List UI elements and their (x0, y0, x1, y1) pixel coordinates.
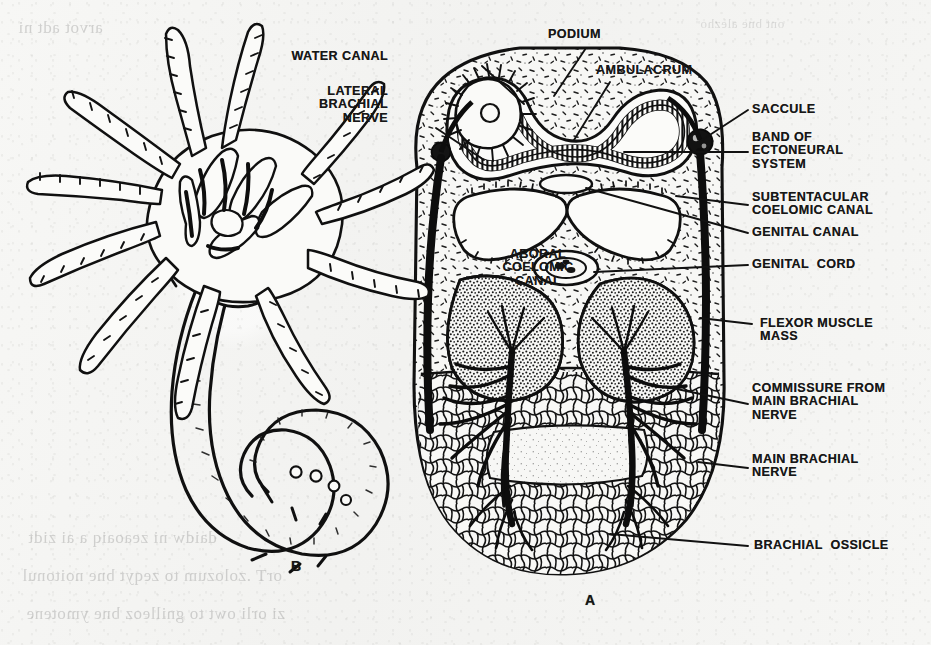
panel-label-a: A (585, 592, 595, 608)
label-aboral-coelomic-canal: ABORAL COELOMIC CANAL (478, 248, 598, 288)
crinoid-stalk-outer (209, 282, 388, 555)
label-podium: PODIUM (548, 28, 601, 41)
label-ambulacrum: AMBULACRUM (596, 64, 692, 77)
panel-label-b: B (291, 558, 301, 574)
figure-page: arvot adt ni ont bne alezho daidw ni zea… (0, 0, 931, 645)
label-band-of-ectoneural-system: BAND OF ECTONEURAL SYSTEM (752, 131, 843, 171)
label-lateral-brachial-nerve: LATERAL BRACHIAL NERVE (248, 85, 388, 125)
label-flexor-muscle-mass: FLEXOR MUSCLE MASS (760, 317, 873, 344)
label-genital-canal: GENITAL CANAL (752, 226, 859, 239)
label-genital-cord: GENITAL CORD (752, 258, 855, 271)
label-brachial-ossicle: BRACHIAL OSSICLE (754, 539, 889, 552)
ossicle-central-fossa (487, 425, 648, 484)
label-commissure-from-main-brachial-nerve: COMMISSURE FROM MAIN BRACHIAL NERVE (752, 382, 885, 422)
crinoid-cirri-nodes (290, 466, 351, 505)
label-water-canal: WATER CANAL (248, 50, 388, 63)
diagram-a-arm-cross-section (400, 48, 740, 590)
label-subtentacular-coelomic-canal: SUBTENTACULAR COELOMIC CANAL (752, 191, 873, 218)
label-main-brachial-nerve: MAIN BRACHIAL NERVE (752, 453, 859, 480)
median-oral-canal (540, 175, 592, 193)
coil-marks (252, 486, 326, 572)
label-saccule: SACCULE (752, 103, 816, 116)
crinoid-mouth (211, 210, 242, 236)
